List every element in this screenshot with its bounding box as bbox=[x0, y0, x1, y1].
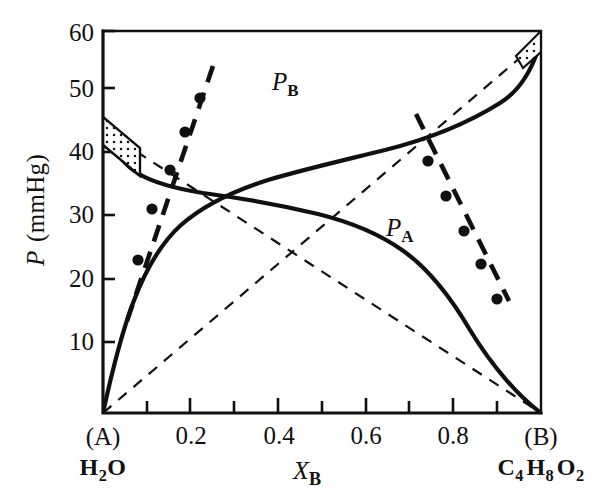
data-point bbox=[440, 190, 451, 201]
data-point bbox=[146, 203, 157, 214]
curve-label-pa-subscript: A bbox=[401, 227, 413, 246]
y-tick-label-20: 20 bbox=[48, 266, 94, 291]
y-tick-label-30: 30 bbox=[48, 202, 94, 227]
henry-region-a bbox=[103, 117, 140, 176]
data-point bbox=[458, 225, 469, 236]
end-member-b-paren: (B) bbox=[524, 423, 557, 450]
x-axis-title-symbol: X bbox=[293, 456, 309, 485]
curve-label-pb-subscript: B bbox=[287, 81, 298, 100]
y-tick-label-60: 60 bbox=[48, 20, 94, 45]
y-axis-ticks bbox=[103, 31, 115, 342]
end-member-a-paren: (A) bbox=[86, 423, 121, 450]
y-tick-label-10: 10 bbox=[48, 329, 94, 354]
y-axis-title: P (mmHg) bbox=[22, 110, 50, 310]
curve-label-pa: PA bbox=[386, 214, 414, 247]
y-axis-title-unit: (mmHg) bbox=[22, 154, 49, 248]
data-point bbox=[422, 155, 433, 166]
curve-label-pb-symbol: P bbox=[272, 68, 287, 95]
curve-label-pb: PB bbox=[272, 68, 299, 101]
curve-label-pa-symbol: P bbox=[386, 214, 401, 241]
henry-region-b bbox=[516, 31, 541, 68]
x-tick-label-0-4: 0.4 bbox=[234, 423, 324, 448]
x-tick-label-0-6: 0.6 bbox=[321, 423, 411, 448]
vapor-pressure-diagram: P (mmHg) 60 50 40 30 20 10 0.2 0.4 0.6 0… bbox=[0, 0, 614, 501]
y-tick-label-50: 50 bbox=[48, 76, 94, 101]
x-axis-title: XB bbox=[0, 456, 614, 490]
data-point bbox=[491, 293, 502, 304]
x-axis-title-subscript: B bbox=[309, 469, 321, 489]
x-axis-ticks bbox=[147, 398, 497, 413]
y-axis-title-symbol: P bbox=[22, 248, 49, 266]
raoult-line-b bbox=[103, 40, 541, 413]
data-point bbox=[194, 92, 205, 103]
data-point bbox=[475, 258, 486, 269]
y-tick-label-40: 40 bbox=[48, 139, 94, 164]
data-point bbox=[132, 254, 143, 265]
data-point bbox=[179, 126, 190, 137]
data-point bbox=[164, 164, 175, 175]
